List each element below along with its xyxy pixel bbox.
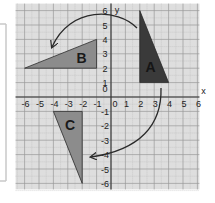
y-tick-label: -3 [101,136,109,146]
y-tick-label: 6 [102,6,107,16]
y-tick-label: 3 [102,49,107,59]
x-tick-label: 5 [181,99,186,109]
x-tick-label: 2 [138,99,143,109]
x-tick-label: -4 [50,99,58,109]
y-tick-label: 5 [102,21,107,31]
y-tick-label: 4 [102,35,107,45]
shape-label-b: B [76,50,86,66]
x-tick-label: -3 [65,99,73,109]
y-tick-label: -1 [101,107,109,117]
rotation-diagram: ABC -6-5-4-3-2-101234566543210-1-2-3-4-5… [0,0,215,203]
y-tick-label: -5 [101,165,109,175]
x-tick-label: -2 [79,99,87,109]
y-tick-label: -6 [101,179,109,189]
y-axis-label: y [115,5,120,15]
shape-label-a: A [146,59,156,75]
y-tick-label: 0 [102,84,107,94]
x-axis-label: x [201,86,206,96]
x-tick-label: 6 [196,99,201,109]
x-tick-label: 0 [112,99,117,109]
y-tick-label: 2 [102,64,107,74]
x-tick-label: 4 [167,99,172,109]
x-tick-label: 1 [124,99,129,109]
x-tick-label: -5 [36,99,44,109]
y-tick-label: -4 [101,150,109,160]
shape-label-c: C [65,117,75,133]
x-tick-label: -6 [22,99,30,109]
y-tick-label: -2 [101,121,109,131]
x-tick-label: 3 [153,99,158,109]
